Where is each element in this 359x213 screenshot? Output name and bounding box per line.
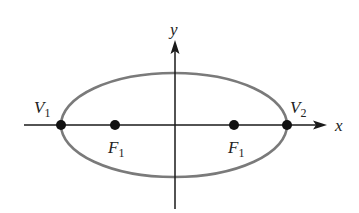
y-axis: y: [168, 20, 180, 209]
vertex-v1-point: [56, 120, 66, 130]
focus-f1-left-point: [110, 120, 120, 130]
vertex-v2-label: V2: [290, 98, 306, 120]
vertex-v2-point: [282, 120, 292, 130]
y-axis-label: y: [168, 20, 178, 39]
x-axis: x: [24, 116, 343, 135]
focus-f1-right-label: F1: [227, 138, 244, 160]
focus-f1-left-label: F1: [107, 138, 124, 160]
vertex-v1-label: V1: [34, 98, 50, 120]
ellipse-diagram: x y V1 F1 F1 V2: [0, 0, 359, 213]
focus-f1-right-point: [229, 120, 239, 130]
x-axis-label: x: [334, 116, 343, 135]
